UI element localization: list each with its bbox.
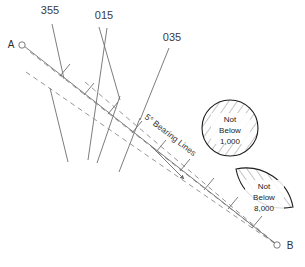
symbol-1000-line-2: Below [219, 126, 241, 135]
diagram-canvas: Not Below 1,000 Not Below 8,000 355 015 … [0, 0, 305, 267]
bearing-label-355: 355 [41, 4, 59, 16]
point-b-marker [274, 242, 280, 248]
symbol-1000-line-1: Not [224, 115, 237, 124]
point-b-label: B [287, 240, 294, 251]
radial-bearing-lines [50, 24, 169, 172]
bearing-diagram: Not Below 1,000 Not Below 8,000 355 015 … [0, 0, 305, 267]
symbol-8000-line-1: Not [258, 182, 271, 191]
point-a-label: A [8, 39, 15, 50]
bearing-label-035: 035 [163, 31, 181, 43]
point-a-marker [19, 42, 25, 48]
bearing-label-015: 015 [95, 9, 113, 21]
altitude-symbol-circle-1000[interactable]: Not Below 1,000 [202, 100, 258, 156]
bearing-line-015 [88, 28, 107, 160]
bearing-envelope-lower [26, 72, 277, 245]
altitude-symbol-lens-8000[interactable]: Not Below 8,000 [236, 168, 293, 213]
bearing-line-035 [140, 48, 169, 120]
symbol-1000-line-3: 1,000 [220, 137, 241, 146]
symbol-8000-line-3: 8,000 [254, 204, 275, 213]
symbol-8000-line-2: Below [253, 193, 275, 202]
five-degree-bearing-lines-label: 5° Bearing Lines [143, 112, 198, 158]
centerline-arrow [150, 145, 184, 179]
bearing-line-extra-2 [119, 118, 140, 172]
